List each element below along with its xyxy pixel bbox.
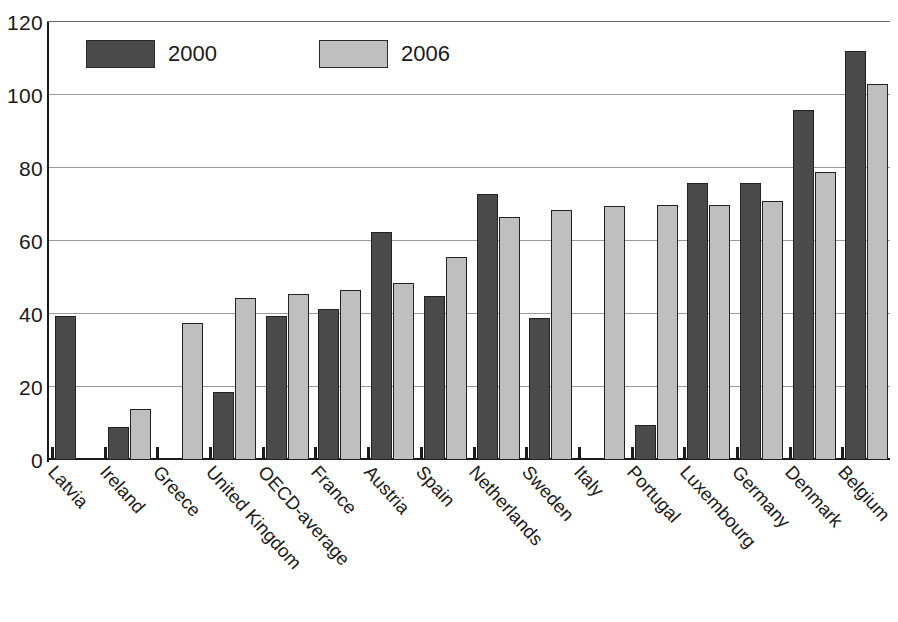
bar-chart: 020406080100120 2000 2006 LatviaIrelandG… xyxy=(0,0,898,622)
bar-2000-austria xyxy=(371,232,392,460)
bar-group xyxy=(152,22,205,460)
x-tick-mark xyxy=(314,447,317,460)
bar-group xyxy=(574,22,627,460)
x-label-spain: Spain xyxy=(413,462,459,510)
x-tick-mark xyxy=(789,447,792,460)
y-tick-label-100: 100 xyxy=(1,85,43,106)
x-label-greece: Greece xyxy=(150,462,205,520)
bar-2000-denmark xyxy=(793,110,814,460)
legend-item-2006: 2006 xyxy=(319,40,450,68)
bar-2006-denmark xyxy=(815,172,836,460)
bar-2006-oecd-average xyxy=(288,294,309,460)
bar-2006-germany xyxy=(762,201,783,460)
x-tick-mark xyxy=(104,447,107,460)
bar-2006-portugal xyxy=(657,205,678,461)
y-tick-label-0: 0 xyxy=(1,450,43,471)
bar-2000-portugal xyxy=(635,425,656,460)
legend-label-2000: 2000 xyxy=(168,43,217,65)
bar-2000-ireland xyxy=(108,427,129,460)
x-tick-mark xyxy=(156,447,159,460)
x-tick-mark xyxy=(525,447,528,460)
bar-group xyxy=(100,22,153,460)
bar-group xyxy=(47,22,100,460)
x-label-austria: Austria xyxy=(361,462,414,518)
x-tick-mark xyxy=(736,447,739,460)
bar-group xyxy=(627,22,680,460)
bar-2006-luxembourg xyxy=(709,205,730,461)
bar-2000-belgium xyxy=(845,51,866,460)
legend-label-2006: 2006 xyxy=(401,43,450,65)
x-label-oecd-average: OECD-average xyxy=(255,462,354,569)
bar-group xyxy=(258,22,311,460)
y-tick-label-60: 60 xyxy=(1,231,43,252)
bar-2000-netherlands xyxy=(477,194,498,460)
bar-2000-oecd-average xyxy=(266,316,287,460)
x-label-portugal: Portugal xyxy=(624,462,684,526)
x-tick-mark xyxy=(367,447,370,460)
bar-group xyxy=(679,22,732,460)
y-tick-label-40: 40 xyxy=(1,304,43,325)
bar-2006-spain xyxy=(446,257,467,460)
bar-2000-united-kingdom xyxy=(213,392,234,460)
x-tick-mark xyxy=(683,447,686,460)
bar-2006-italy xyxy=(604,206,625,460)
bar-2000-spain xyxy=(424,296,445,460)
x-axis-tick-labels: LatviaIrelandGreeceUnited KingdomOECD-av… xyxy=(47,462,890,622)
bar-2000-france xyxy=(318,309,339,460)
bar-group xyxy=(205,22,258,460)
bar-2006-united-kingdom xyxy=(235,298,256,460)
x-tick-mark xyxy=(420,447,423,460)
bar-2006-sweden xyxy=(551,210,572,460)
x-tick-mark xyxy=(262,447,265,460)
bar-2000-germany xyxy=(740,183,761,460)
bar-2000-luxembourg xyxy=(687,183,708,460)
x-label-italy: Italy xyxy=(571,462,608,500)
x-tick-mark xyxy=(209,447,212,460)
x-tick-mark xyxy=(841,447,844,460)
bar-2006-belgium xyxy=(867,84,888,460)
bar-group xyxy=(732,22,785,460)
chart-legend: 2000 2006 xyxy=(86,40,450,68)
x-tick-mark xyxy=(473,447,476,460)
bar-2006-austria xyxy=(393,283,414,460)
bar-2000-sweden xyxy=(529,318,550,460)
y-axis-tick-labels: 020406080100120 xyxy=(0,22,43,460)
bar-group xyxy=(469,22,522,460)
bar-2006-greece xyxy=(182,323,203,460)
bar-group xyxy=(521,22,574,460)
x-tick-mark xyxy=(631,447,634,460)
bar-group xyxy=(363,22,416,460)
legend-swatch-2000 xyxy=(86,40,155,68)
bar-group xyxy=(416,22,469,460)
bar-2006-netherlands xyxy=(499,217,520,460)
bar-2006-france xyxy=(340,290,361,460)
x-tick-mark xyxy=(578,447,581,460)
bar-2000-latvia xyxy=(55,316,76,460)
x-label-ireland: Ireland xyxy=(97,462,149,517)
y-tick-label-120: 120 xyxy=(1,12,43,33)
x-label-united-kingdom: United Kingdom xyxy=(202,462,304,573)
bars-layer xyxy=(47,22,890,460)
y-tick-label-20: 20 xyxy=(1,377,43,398)
y-tick-label-80: 80 xyxy=(1,158,43,179)
legend-item-2000: 2000 xyxy=(86,40,217,68)
bar-group xyxy=(837,22,890,460)
bar-2006-ireland xyxy=(130,409,151,460)
bar-group xyxy=(785,22,838,460)
legend-swatch-2006 xyxy=(319,40,388,68)
x-label-latvia: Latvia xyxy=(44,462,91,511)
x-label-france: France xyxy=(308,462,361,518)
bar-group xyxy=(310,22,363,460)
x-tick-mark xyxy=(51,447,54,460)
